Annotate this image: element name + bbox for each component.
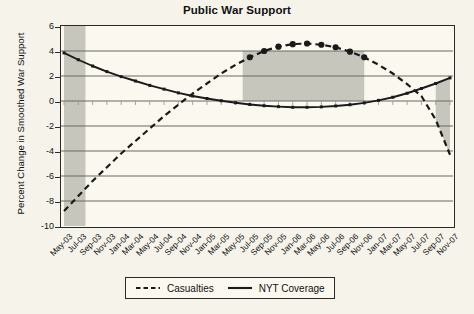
- marker-nyt-coverage-6: [148, 84, 151, 87]
- plot-svg: [61, 26, 453, 226]
- marker-nyt-coverage-21: [363, 101, 366, 104]
- legend-item-nyt-coverage[interactable]: NYT Coverage: [227, 283, 325, 294]
- marker-nyt-coverage-17: [306, 106, 309, 109]
- marker-nyt-coverage-9: [191, 95, 194, 98]
- marker-nyt-coverage-25: [420, 87, 423, 90]
- marker-nyt-coverage-14: [263, 104, 266, 107]
- marker-casualties-13: [247, 54, 253, 60]
- marker-nyt-coverage-3: [105, 70, 108, 73]
- marker-nyt-coverage-1: [77, 58, 80, 61]
- marker-casualties-14: [261, 48, 267, 54]
- marker-nyt-coverage-10: [205, 97, 208, 100]
- y-axis-label-0: 0: [28, 97, 54, 106]
- marker-nyt-coverage-15: [277, 105, 280, 108]
- marker-nyt-coverage-20: [348, 103, 351, 106]
- marker-casualties-19: [333, 44, 339, 50]
- marker-nyt-coverage-13: [248, 103, 251, 106]
- marker-nyt-coverage-8: [177, 91, 180, 94]
- chart-legend: Casualties NYT Coverage: [125, 277, 335, 299]
- chart-container: Public War Support Percent Change in Smo…: [0, 0, 474, 314]
- marker-casualties-20: [347, 49, 353, 55]
- marker-nyt-coverage-7: [163, 88, 166, 91]
- y-axis-title: Percent Change in Smoothed War Support: [15, 9, 26, 239]
- y-axis-label--2: -2: [28, 122, 54, 131]
- legend-label-nyt-coverage: NYT Coverage: [259, 283, 325, 294]
- solid-line-icon: [227, 283, 253, 293]
- marker-casualties-16: [290, 41, 296, 47]
- legend-label-casualties: Casualties: [167, 283, 214, 294]
- marker-casualties-18: [318, 42, 324, 48]
- marker-nyt-coverage-5: [134, 80, 137, 83]
- marker-casualties-21: [361, 54, 367, 60]
- marker-nyt-coverage-2: [91, 65, 94, 68]
- y-axis-label--8: -8: [28, 197, 54, 206]
- shaded-region-late-war-shading: [436, 78, 450, 155]
- legend-item-casualties[interactable]: Casualties: [135, 283, 214, 294]
- dashed-line-icon: [135, 283, 161, 293]
- marker-casualties-17: [304, 40, 310, 46]
- y-axis-label-4: 4: [28, 47, 54, 56]
- y-axis-label-2: 2: [28, 72, 54, 81]
- y-axis-label--4: -4: [28, 147, 54, 156]
- marker-nyt-coverage-22: [377, 99, 380, 102]
- plot-area: [60, 25, 455, 228]
- marker-nyt-coverage-19: [334, 105, 337, 108]
- marker-nyt-coverage-4: [120, 75, 123, 78]
- y-axis-label--10: -10: [28, 222, 54, 231]
- y-axis-label-6: 6: [28, 22, 54, 31]
- marker-nyt-coverage-16: [291, 106, 294, 109]
- marker-nyt-coverage-0: [63, 51, 66, 54]
- marker-nyt-coverage-23: [391, 96, 394, 99]
- marker-nyt-coverage-12: [234, 101, 237, 104]
- marker-nyt-coverage-11: [220, 99, 223, 102]
- chart-title: Public War Support: [0, 4, 474, 16]
- marker-nyt-coverage-18: [320, 105, 323, 108]
- y-axis-label--6: -6: [28, 172, 54, 181]
- marker-nyt-coverage-27: [449, 76, 452, 79]
- marker-nyt-coverage-26: [434, 82, 437, 85]
- marker-casualties-15: [275, 44, 281, 50]
- marker-nyt-coverage-24: [406, 92, 409, 95]
